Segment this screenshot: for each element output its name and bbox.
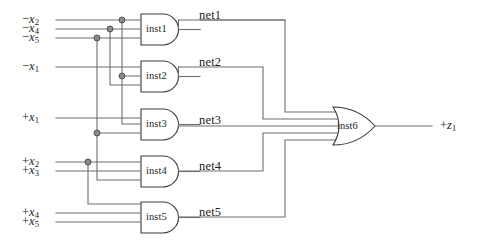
net-label-net4: net4 bbox=[199, 160, 221, 173]
junction-px2 bbox=[85, 159, 91, 165]
gate-label-inst2: inst2 bbox=[146, 71, 167, 82]
circuit-diagram-canvas: −x2 −x4 −x5 −x1 +x1 +x2 +x3 +x4 +x5 inst… bbox=[0, 0, 479, 245]
junction-nx2-inst2 bbox=[119, 73, 125, 79]
branch-wires bbox=[88, 20, 140, 204]
gate-label-inst4: inst4 bbox=[146, 166, 167, 177]
input-label-px1: +x1 bbox=[22, 111, 39, 125]
net-label-net5: net5 bbox=[199, 206, 221, 219]
input-label-px5: +x5 bbox=[22, 215, 39, 229]
branch-nx5-to-inst4 bbox=[97, 133, 140, 180]
gate-label-inst6: inst6 bbox=[337, 121, 358, 132]
input-label-px3: +x3 bbox=[22, 164, 39, 178]
branch-px2-to-inst5 bbox=[88, 162, 140, 204]
input-label-nx1: −x1 bbox=[22, 60, 39, 74]
junction-nx5 bbox=[94, 35, 100, 41]
junction-nx2 bbox=[119, 17, 125, 23]
gate-label-inst1: inst1 bbox=[146, 24, 167, 35]
junction-nx4 bbox=[107, 26, 113, 32]
net-label-net1: net1 bbox=[199, 9, 221, 22]
junction-dots bbox=[85, 17, 125, 165]
output-label-z1: +z1 bbox=[440, 119, 456, 133]
net-label-net2: net2 bbox=[199, 56, 221, 69]
gate-label-inst3: inst3 bbox=[146, 119, 167, 130]
circuit-schematic-svg bbox=[0, 0, 479, 245]
gate-label-inst5: inst5 bbox=[146, 212, 167, 223]
branch-nx2-to-inst2 bbox=[122, 20, 140, 76]
wire-net2-run bbox=[179, 67, 339, 119]
branch-nx4-to-inst3 bbox=[122, 76, 140, 124]
net-label-net3: net3 bbox=[199, 114, 221, 127]
input-label-nx5: −x5 bbox=[22, 31, 39, 45]
junction-nx5-inst3 bbox=[94, 130, 100, 136]
input-wires bbox=[56, 20, 140, 222]
